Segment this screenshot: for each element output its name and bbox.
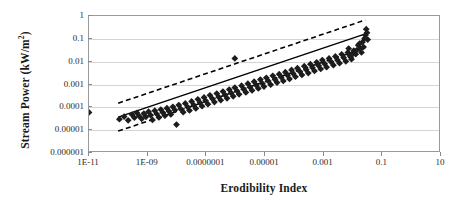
y-tick-mark [88,38,92,39]
y-tick-mark [88,61,92,62]
y-tick-mark [88,84,92,85]
y-tick-mark [88,152,92,153]
y-tick-mark [88,129,92,130]
x-tick-label: 10 [400,157,464,167]
chart-figure: Stream Power (kW/m2) 10.10.010.0010.0001… [0,0,464,218]
x-axis-title: Erodibility Index [88,182,440,194]
x-tick-mark [440,152,441,156]
x-tick-mark [323,152,324,156]
y-tick-mark [88,106,92,107]
x-tick-mark [264,152,265,156]
x-tick-mark [147,152,148,156]
x-tick-mark [381,152,382,156]
x-tick-mark [205,152,206,156]
y-tick-mark [88,15,92,16]
